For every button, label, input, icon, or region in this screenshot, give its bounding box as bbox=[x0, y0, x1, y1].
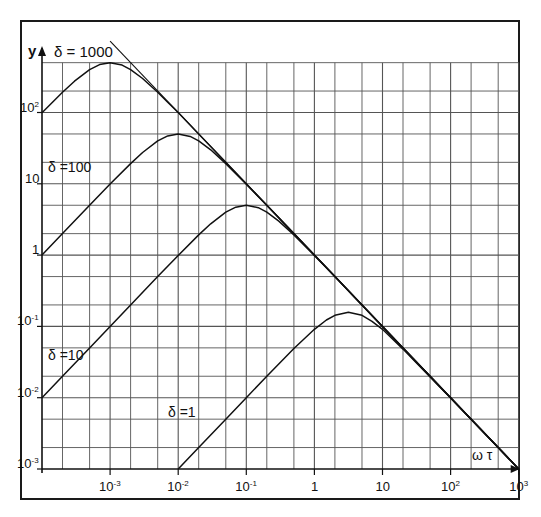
tick-base: 10 bbox=[17, 456, 31, 471]
tick-base: 10 bbox=[509, 479, 523, 494]
y-axis-arrow-icon bbox=[38, 46, 46, 56]
curve-1000 bbox=[42, 63, 519, 469]
tick-base: 10 bbox=[99, 479, 113, 494]
x-tick-label: 10-3 bbox=[99, 480, 121, 493]
series-label-delta-10: δ =10 bbox=[48, 348, 83, 362]
tick-exponent: 3 bbox=[524, 479, 528, 488]
y-tick-label: 10-2 bbox=[17, 386, 39, 399]
tick-base: 1 bbox=[32, 242, 39, 257]
tick-exponent: -2 bbox=[31, 385, 38, 394]
tick-base: 10 bbox=[376, 479, 390, 494]
x-tick-label: 10 bbox=[376, 480, 390, 493]
x-tick-label: 1 bbox=[311, 480, 318, 493]
curve-10 bbox=[42, 205, 519, 469]
series-label-delta-100: δ =100 bbox=[48, 160, 91, 174]
series-label-delta-1000: δ = 1000 bbox=[54, 44, 113, 59]
x-axis-label: ω τ bbox=[472, 448, 492, 462]
x-tick-label: 10-1 bbox=[235, 480, 257, 493]
tick-exponent: 2 bbox=[456, 479, 460, 488]
tick-base: 10 bbox=[20, 100, 34, 115]
tick-base: 10 bbox=[17, 385, 31, 400]
x-tick-label: 10-2 bbox=[167, 480, 189, 493]
tick-exponent: -2 bbox=[182, 479, 189, 488]
tick-base: 10 bbox=[25, 171, 39, 186]
y-tick-label: 10 bbox=[25, 172, 39, 185]
tick-base: 1 bbox=[311, 479, 318, 494]
tick-exponent: -3 bbox=[114, 479, 121, 488]
tick-base: 10 bbox=[441, 479, 455, 494]
y-tick-label: 10-3 bbox=[17, 457, 39, 470]
plot-area bbox=[0, 0, 541, 517]
tick-exponent: -1 bbox=[31, 313, 38, 322]
grid-lines bbox=[42, 63, 519, 469]
tick-exponent: -3 bbox=[31, 456, 38, 465]
x-tick-label: 103 bbox=[509, 480, 528, 493]
y-tick-label: 102 bbox=[20, 101, 39, 114]
y-tick-label: 10-1 bbox=[17, 314, 39, 327]
y-axis-label: y bbox=[28, 43, 36, 58]
y-tick-label: 1 bbox=[32, 243, 39, 256]
tick-base: 10 bbox=[167, 479, 181, 494]
tick-base: 10 bbox=[17, 314, 31, 329]
tick-exponent: -1 bbox=[250, 479, 257, 488]
tick-base: 10 bbox=[235, 479, 249, 494]
x-tick-label: 102 bbox=[441, 480, 460, 493]
curve-1 bbox=[178, 312, 519, 469]
tick-exponent: 2 bbox=[34, 100, 38, 109]
series-label-delta-1: δ =1 bbox=[168, 405, 196, 419]
axes bbox=[37, 46, 520, 475]
